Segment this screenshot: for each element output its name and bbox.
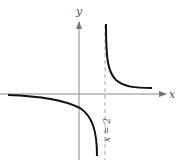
left-branch-curve — [8, 95, 97, 156]
y-axis-label: y — [75, 5, 83, 18]
asymptote-label: x = 2 — [102, 118, 112, 142]
graph: y x x = 2 — [0, 0, 177, 164]
x-axis-label: x — [169, 88, 176, 101]
right-branch-curve — [106, 24, 152, 88]
